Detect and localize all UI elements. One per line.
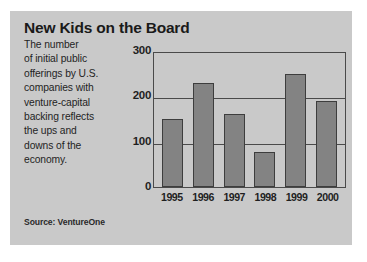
description-line: backing reflects xyxy=(24,110,128,124)
plot-area xyxy=(153,52,346,188)
bar-1995 xyxy=(162,119,183,187)
bar-1999 xyxy=(285,74,306,187)
bar-2000 xyxy=(316,101,337,187)
x-axis-tick: 1999 xyxy=(286,191,307,207)
description-line: companies with xyxy=(24,81,128,95)
x-axis-tick: 1998 xyxy=(255,191,276,207)
page-title: New Kids on the Board xyxy=(24,19,189,37)
source-note: Source: VentureOne xyxy=(24,217,105,227)
bar-1998 xyxy=(254,152,275,187)
description-line: The number xyxy=(24,38,128,52)
description-line: downs of the xyxy=(24,139,128,153)
figure: New Kids on the Board The number of init… xyxy=(0,0,367,262)
y-axis-tick: 0 xyxy=(121,180,151,192)
bar-1997 xyxy=(224,114,245,187)
bar-series xyxy=(154,53,345,187)
description-line: of initial public xyxy=(24,52,128,66)
x-axis-tick: 1995 xyxy=(161,191,182,207)
description-line: the ups and xyxy=(24,124,128,138)
y-axis-tick-labels: 0100200300 xyxy=(120,52,151,188)
description-line: venture-capital xyxy=(24,96,128,110)
y-axis-tick: 100 xyxy=(121,135,151,147)
y-axis-tick: 300 xyxy=(121,44,151,56)
x-axis-tick-labels: 199519961997199819992000 xyxy=(153,191,346,207)
description-line: economy. xyxy=(24,153,128,167)
bar-chart: 0100200300 199519961997199819992000 xyxy=(120,38,342,228)
bar-1996 xyxy=(193,83,214,187)
y-axis-tick: 200 xyxy=(121,89,151,101)
x-axis-tick: 2000 xyxy=(317,191,338,207)
x-axis-tick: 1997 xyxy=(223,191,244,207)
infographic-card: New Kids on the Board The number of init… xyxy=(10,11,352,245)
x-axis-tick: 1996 xyxy=(192,191,213,207)
description-text: The number of initial public offerings b… xyxy=(24,38,128,168)
description-line: offerings by U.S. xyxy=(24,67,128,81)
